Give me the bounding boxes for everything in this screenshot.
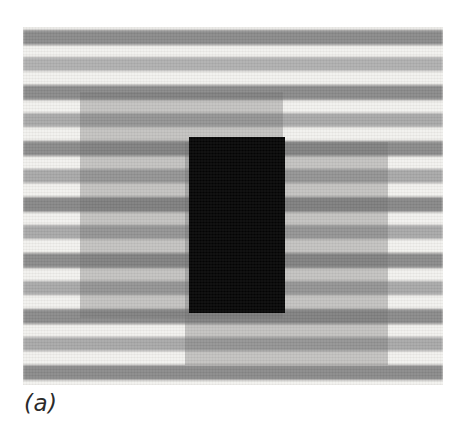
grating-stripe-dark-12 [23, 365, 443, 380]
grating-image-plate [23, 27, 443, 385]
grating-stripe-mid-1 [23, 57, 443, 71]
figure-caption-label: (a) [24, 392, 58, 415]
grating-stripe-dark-0 [23, 30, 443, 45]
opaque-black-rectangle [189, 137, 285, 313]
figure-root: (a) [0, 0, 466, 433]
